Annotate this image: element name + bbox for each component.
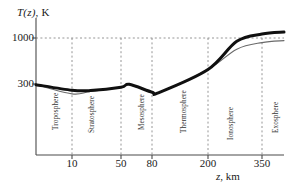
- grid-lines-group: [36, 38, 284, 155]
- curve-thick-profile: [36, 32, 284, 94]
- plot-area: [0, 0, 294, 192]
- curve-thin-profile: [36, 41, 284, 95]
- data-curves-group: [36, 32, 284, 95]
- temperature-profile-figure: T(z), K z, km 1000 300 10 50 80 200 350 …: [0, 0, 294, 192]
